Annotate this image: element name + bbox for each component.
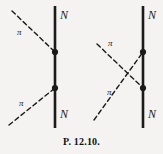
diagram-right	[94, 6, 146, 128]
vertex-upper-left-diagram	[52, 49, 58, 55]
label-pion-lower-left-diagram: π	[19, 99, 24, 108]
pion-line-lower-left	[9, 88, 55, 125]
pion-line-crossed-descending	[97, 44, 143, 88]
feynman-diagrams-svg	[0, 0, 163, 154]
label-nucleon-bottom-right-diagram: N	[148, 108, 156, 120]
figure-container: N N π π N N π π P. 12.10.	[0, 0, 163, 154]
pion-line-crossed-ascending	[94, 52, 143, 120]
figure-caption: P. 12.10.	[0, 136, 163, 147]
label-pion-upper-left-diagram: π	[17, 28, 22, 37]
vertex-lower-left-diagram	[52, 85, 58, 91]
label-nucleon-top-left-diagram: N	[60, 9, 68, 21]
label-nucleon-top-right-diagram: N	[148, 9, 156, 21]
label-nucleon-bottom-left-diagram: N	[60, 108, 68, 120]
vertex-upper-right-diagram	[140, 49, 146, 55]
label-pion-upper-right-diagram: π	[108, 39, 113, 48]
vertex-lower-right-diagram	[140, 85, 146, 91]
label-pion-lower-right-diagram: π	[107, 88, 112, 97]
diagram-left	[9, 6, 58, 128]
